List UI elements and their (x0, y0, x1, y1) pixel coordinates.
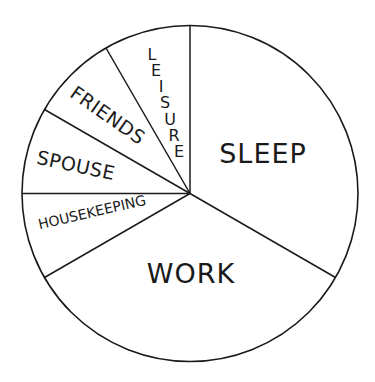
label-work: WORK (147, 258, 236, 289)
leisure-letter: E (174, 142, 184, 161)
pie-chart: SLEEP WORK HOUSEKEEPING SPOUSE FRIENDS L… (0, 0, 375, 382)
pie-slices (22, 26, 358, 362)
label-sleep: SLEEP (219, 138, 307, 169)
